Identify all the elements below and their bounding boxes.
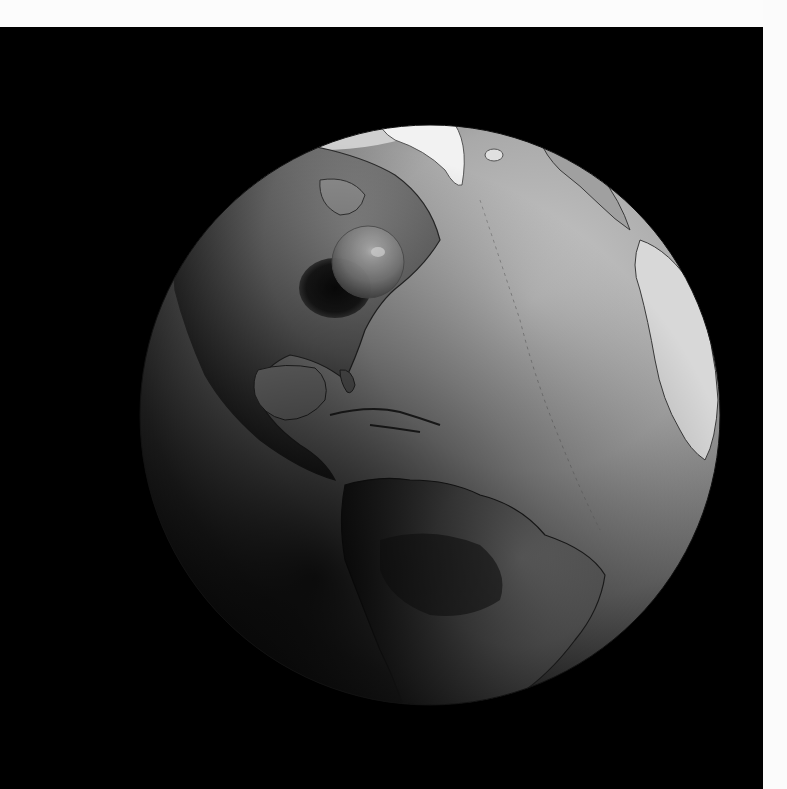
night-shadow bbox=[140, 125, 720, 705]
space-background bbox=[0, 27, 763, 789]
image-canvas bbox=[0, 0, 787, 789]
right-white-margin bbox=[763, 0, 787, 789]
earth-globe bbox=[0, 27, 763, 789]
top-white-margin bbox=[0, 0, 763, 27]
